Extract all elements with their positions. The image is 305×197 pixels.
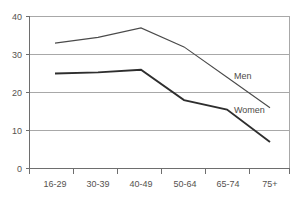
series-label-women: Women xyxy=(234,105,265,115)
x-label-50-64: 50-64 xyxy=(173,179,196,189)
y-label-30: 30 xyxy=(12,50,22,60)
y-label-10: 10 xyxy=(12,126,22,136)
y-label-0: 0 xyxy=(17,164,22,174)
x-label-75plus: 75+ xyxy=(262,179,277,189)
line-chart: 40 30 20 10 0 16-29 30-39 40-49 50-64 65… xyxy=(0,0,305,197)
x-label-16-29: 16-29 xyxy=(43,179,66,189)
y-label-40: 40 xyxy=(12,12,22,22)
chart-background xyxy=(0,0,305,197)
chart-canvas: 40 30 20 10 0 16-29 30-39 40-49 50-64 65… xyxy=(0,0,305,197)
y-label-20: 20 xyxy=(12,88,22,98)
x-label-30-39: 30-39 xyxy=(86,179,109,189)
x-label-40-49: 40-49 xyxy=(129,179,152,189)
series-label-men: Men xyxy=(234,71,252,81)
x-label-65-74: 65-74 xyxy=(216,179,239,189)
